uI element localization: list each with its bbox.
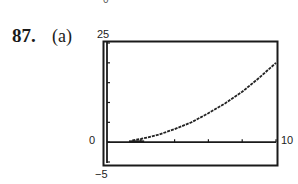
tick-marks (107, 43, 276, 162)
function-curve (132, 63, 276, 141)
axes (107, 42, 276, 163)
calculator-graph (0, 0, 298, 184)
graph-frame (104, 42, 278, 166)
